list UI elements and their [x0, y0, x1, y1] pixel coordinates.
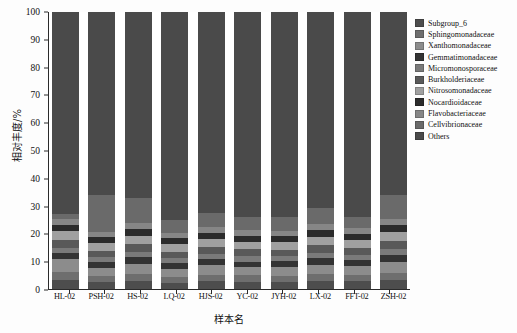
- legend-item[interactable]: Others: [415, 131, 497, 141]
- bar-segment[interactable]: [52, 272, 79, 279]
- legend-item[interactable]: Sphingomonadaceae: [415, 29, 497, 39]
- bar-segment[interactable]: [344, 266, 371, 275]
- legend-swatch-icon: [415, 19, 424, 27]
- y-tick-label: 50: [31, 146, 41, 156]
- bar-segment[interactable]: [52, 280, 79, 289]
- bar-segment[interactable]: [198, 281, 225, 289]
- legend-item[interactable]: Burkholderiaceae: [415, 74, 497, 84]
- bar-segment[interactable]: [271, 217, 298, 231]
- bar-segment[interactable]: [234, 249, 261, 256]
- bar-segment[interactable]: [198, 12, 225, 213]
- bar-segment[interactable]: [380, 262, 407, 273]
- bar-segment[interactable]: [234, 12, 261, 217]
- bar-segment[interactable]: [125, 244, 152, 251]
- legend-label: Others: [428, 132, 449, 141]
- bar-segment[interactable]: [307, 265, 334, 274]
- bar-segment[interactable]: [125, 229, 152, 236]
- bar-column[interactable]: [125, 12, 152, 289]
- bar-column[interactable]: [52, 12, 79, 289]
- bar-segment[interactable]: [271, 250, 298, 257]
- legend-label: Xanthomonadaceae: [428, 41, 491, 50]
- bar-segment[interactable]: [344, 12, 371, 217]
- legend-item[interactable]: Gemmatimonadaceae: [415, 52, 497, 62]
- bar-column[interactable]: [307, 12, 334, 289]
- bar-segment[interactable]: [307, 274, 334, 281]
- bar-segment[interactable]: [307, 230, 334, 237]
- bar-segment[interactable]: [234, 242, 261, 249]
- bar-segment[interactable]: [198, 213, 225, 227]
- bar-segment[interactable]: [88, 251, 115, 258]
- bar-segment[interactable]: [271, 267, 298, 276]
- bar-segment[interactable]: [88, 195, 115, 232]
- bar-segment[interactable]: [125, 198, 152, 223]
- legend-item[interactable]: Nocardioidaceae: [415, 97, 497, 107]
- legend-item[interactable]: Subgroup_6: [415, 18, 497, 28]
- bar-segment[interactable]: [344, 281, 371, 289]
- y-tick-label: 40: [31, 174, 41, 184]
- bar-segment[interactable]: [307, 237, 334, 245]
- bar-column[interactable]: [198, 12, 225, 289]
- bar-segment[interactable]: [380, 280, 407, 289]
- bar-column[interactable]: [271, 12, 298, 289]
- bar-column[interactable]: [88, 12, 115, 289]
- bar-segment[interactable]: [344, 248, 371, 255]
- bar-segment[interactable]: [161, 283, 188, 289]
- bar-segment[interactable]: [380, 12, 407, 195]
- bar-segment[interactable]: [52, 231, 79, 240]
- bar-segment[interactable]: [234, 217, 261, 230]
- bar-segment[interactable]: [52, 259, 79, 272]
- bar-segment[interactable]: [380, 255, 407, 262]
- bar-segment[interactable]: [88, 12, 115, 195]
- bar-segment[interactable]: [380, 225, 407, 232]
- bar-segment[interactable]: [380, 232, 407, 241]
- bar-segment[interactable]: [234, 267, 261, 275]
- bar-segment[interactable]: [307, 281, 334, 289]
- bar-segment[interactable]: [125, 257, 152, 264]
- legend-label: Nitrosomonadaceae: [428, 86, 492, 95]
- bar-segment[interactable]: [380, 273, 407, 280]
- bar-segment[interactable]: [271, 242, 298, 250]
- bar-segment[interactable]: [52, 240, 79, 248]
- bar-segment[interactable]: [125, 264, 152, 274]
- bar-segment[interactable]: [125, 236, 152, 244]
- bar-segment[interactable]: [52, 12, 79, 214]
- bar-segment[interactable]: [125, 12, 152, 198]
- bar-segment[interactable]: [125, 274, 152, 281]
- bar-segment[interactable]: [307, 208, 334, 225]
- bar-segment[interactable]: [161, 12, 188, 220]
- bar-segment[interactable]: [125, 281, 152, 289]
- bar-segment[interactable]: [271, 282, 298, 289]
- bar-segment[interactable]: [52, 225, 79, 232]
- bar-segment[interactable]: [161, 269, 188, 278]
- bar-column[interactable]: [234, 12, 261, 289]
- legend-item[interactable]: Xanthomonadaceae: [415, 41, 497, 51]
- legend-item[interactable]: Micromonosporaceae: [415, 63, 497, 73]
- bar-segment[interactable]: [198, 239, 225, 247]
- bar-segment[interactable]: [344, 217, 371, 228]
- bar-segment[interactable]: [88, 243, 115, 251]
- bar-segment[interactable]: [88, 268, 115, 276]
- x-tick-mark: [247, 290, 248, 294]
- legend-swatch-icon: [415, 87, 424, 95]
- legend-label: Subgroup_6: [428, 19, 467, 28]
- legend-item[interactable]: Flavobacteriaceae: [415, 108, 497, 118]
- bar-segment[interactable]: [161, 220, 188, 233]
- bar-column[interactable]: [161, 12, 188, 289]
- bar-segment[interactable]: [198, 265, 225, 274]
- legend-swatch-icon: [415, 30, 424, 38]
- bar-segment[interactable]: [307, 12, 334, 208]
- legend-item[interactable]: Nitrosomonadaceae: [415, 86, 497, 96]
- legend-item[interactable]: Cellvibrionaceae: [415, 120, 497, 130]
- bar-segment[interactable]: [344, 240, 371, 248]
- bar-segment[interactable]: [380, 241, 407, 249]
- bar-segment[interactable]: [198, 247, 225, 254]
- bar-segment[interactable]: [307, 245, 334, 253]
- bar-segment[interactable]: [88, 282, 115, 289]
- bar-column[interactable]: [344, 12, 371, 289]
- bar-column[interactable]: [380, 12, 407, 289]
- bar-segment[interactable]: [380, 195, 407, 219]
- legend-swatch-icon: [415, 98, 424, 106]
- bar-segment[interactable]: [271, 12, 298, 217]
- bar-segment[interactable]: [234, 282, 261, 289]
- bar-segment[interactable]: [161, 244, 188, 251]
